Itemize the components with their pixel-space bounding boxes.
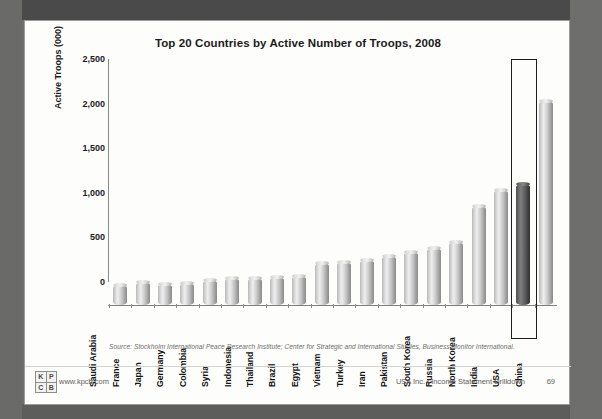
x-label-turkey: Turkey <box>335 359 345 387</box>
x-tick-mark <box>288 304 289 308</box>
bar-north-korea <box>472 206 486 305</box>
x-tick-mark <box>311 304 312 308</box>
x-tick-mark <box>221 304 222 308</box>
x-label-colombia: Colombia <box>178 348 188 387</box>
x-tick-mark <box>109 304 110 308</box>
bar-thailand <box>270 277 284 305</box>
x-tick-mark <box>243 304 244 308</box>
logo-letter-b: B <box>47 383 57 393</box>
page-number: 69 <box>547 377 555 386</box>
logo-letter-k: K <box>36 372 46 382</box>
x-label-brazil: Brazil <box>267 364 277 387</box>
bar-turkey <box>360 260 374 305</box>
slide: Top 20 Countries by Active Number of Tro… <box>24 20 570 405</box>
bar-usa <box>516 184 530 305</box>
x-tick-mark <box>490 304 491 308</box>
y-axis-title: Active Troops (000) <box>53 26 63 109</box>
footer-divider <box>25 366 571 367</box>
bar-saudi-arabia <box>113 285 127 305</box>
bar-india <box>494 190 508 305</box>
x-tick-mark <box>400 304 401 308</box>
x-tick-mark <box>199 304 200 308</box>
source-note: Source: Stockholm International Peace Re… <box>109 343 549 350</box>
bar-japan <box>158 284 172 305</box>
x-tick-mark <box>266 304 267 308</box>
x-tick-mark <box>445 304 446 308</box>
bar-russia <box>449 242 463 305</box>
x-tick-mark <box>176 304 177 308</box>
bar-vietnam <box>337 262 351 305</box>
kpcb-logo-icon: K P C B <box>35 371 57 393</box>
bar-iran <box>382 256 396 305</box>
logo-letter-p: P <box>47 372 57 382</box>
bar-indonesia <box>248 278 262 305</box>
x-label-syria: Syria <box>200 366 210 387</box>
bar-series <box>109 84 557 305</box>
x-label-germany: Germany <box>155 350 165 387</box>
x-tick-mark <box>131 304 132 308</box>
scan-edge-right <box>570 0 602 419</box>
bar-colombia <box>203 280 217 305</box>
bar-south-korea <box>427 248 441 305</box>
x-tick-mark <box>423 304 424 308</box>
y-tick-label: 2,000 <box>61 99 105 109</box>
x-tick-mark <box>355 304 356 308</box>
y-tick-label: 500 <box>61 232 105 242</box>
x-tick-mark <box>512 304 513 308</box>
logo-letter-c: C <box>36 383 46 393</box>
bar-germany <box>180 283 194 305</box>
y-tick-label: 0 <box>61 277 105 287</box>
x-tick-mark <box>333 304 334 308</box>
y-tick-label: 1,000 <box>61 188 105 198</box>
scan-edge-left <box>0 0 22 419</box>
bar-pakistan <box>404 252 418 305</box>
scan-edge-bottom <box>0 404 602 419</box>
x-tick-mark <box>467 304 468 308</box>
scan-edge-top <box>0 0 602 20</box>
y-tick-label: 1,500 <box>61 143 105 153</box>
bar-egypt <box>315 263 329 305</box>
x-tick-mark <box>378 304 379 308</box>
x-label-iran: Iran <box>357 371 367 387</box>
x-tick-mark <box>154 304 155 308</box>
x-label-france: France <box>111 359 121 387</box>
x-label-vietnam: Vietnam <box>312 354 322 387</box>
x-tick-mark <box>535 304 536 308</box>
kpcb-url[interactable]: www.kpcb.com <box>59 377 109 386</box>
bar-brazil <box>292 276 306 305</box>
x-label-pakistan: Pakistan <box>379 352 389 387</box>
y-tick-label: 2,500 <box>61 54 105 64</box>
chart-plot-area: Active Troops (000) 05001,0001,5002,0002… <box>61 57 561 309</box>
x-label-thailand: Thailand <box>245 352 255 387</box>
chart-title: Top 20 Countries by Active Number of Tro… <box>25 37 571 49</box>
bar-china <box>539 101 553 305</box>
bar-france <box>136 282 150 305</box>
bar-syria <box>225 278 239 305</box>
footer-deck-title: USA Inc. | Income Statement Drilldown <box>396 377 525 386</box>
